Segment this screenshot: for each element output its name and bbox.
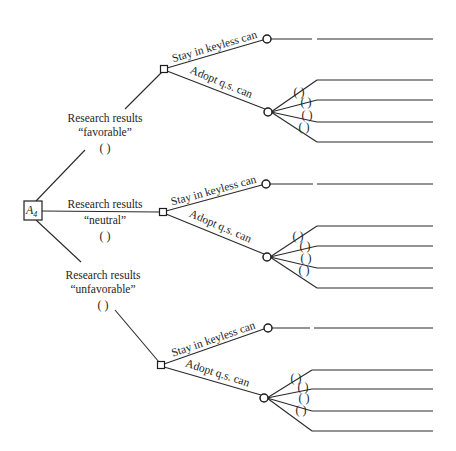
edge-root-to-unfavorable-part2	[115, 310, 159, 362]
chance-node-stay-favorable	[263, 35, 271, 43]
research-outcome-label-neutral: Research results	[67, 198, 143, 210]
edge-root-to-neutral	[42, 211, 159, 212]
probability-blank-favorable: ( )	[100, 141, 111, 155]
alternative-label-adopt-unfavorable: Adopt q.s. can	[184, 357, 251, 390]
probability-blank-unfavorable: ( )	[98, 298, 109, 312]
research-outcome-name-unfavorable: “unfavorable”	[70, 283, 135, 295]
alternative-label-stay-neutral: Stay in keyless can	[170, 173, 258, 209]
research-outcome-name-favorable: “favorable”	[78, 126, 132, 138]
chance-node-stay-unfavorable	[264, 324, 272, 332]
chance-node-adopt-unfavorable	[260, 394, 268, 402]
tree-labels: Research results“favorable”( )Stay in ke…	[65, 28, 312, 417]
root-node-a4: A4	[24, 201, 42, 220]
research-outcome-label-unfavorable: Research results	[65, 269, 141, 281]
edge-root-to-favorable-part2	[125, 72, 162, 109]
edge-root-to-favorable-part1	[36, 150, 85, 201]
decision-tree-diagram: Research results“favorable”( )Stay in ke…	[0, 0, 456, 451]
probability-blank-adopt-favorable-4: ( )	[299, 120, 310, 134]
chance-node-adopt-neutral	[263, 253, 271, 261]
root-label-subscript: 4	[33, 210, 37, 219]
research-outcome-name-neutral: “neutral”	[84, 214, 126, 226]
decision-node-neutral	[160, 209, 167, 216]
probability-blank-neutral: ( )	[100, 229, 111, 243]
alternative-label-stay-favorable: Stay in keyless can	[171, 28, 259, 65]
probability-blank-adopt-unfavorable-4: ( )	[296, 403, 307, 417]
decision-node-favorable	[161, 66, 168, 73]
edge-root-to-unfavorable-part1	[36, 220, 81, 262]
probability-blank-adopt-neutral-4: ( )	[299, 263, 310, 277]
probability-blank-adopt-favorable-2: ( )	[301, 95, 312, 109]
chance-node-adopt-favorable	[264, 108, 272, 116]
alternative-label-stay-unfavorable: Stay in keyless can	[170, 319, 257, 360]
decision-node-unfavorable	[158, 362, 165, 369]
alternative-label-adopt-favorable: Adopt q.s. can	[188, 64, 255, 102]
research-outcome-label-favorable: Research results	[67, 112, 143, 124]
chance-node-stay-neutral	[262, 180, 270, 188]
